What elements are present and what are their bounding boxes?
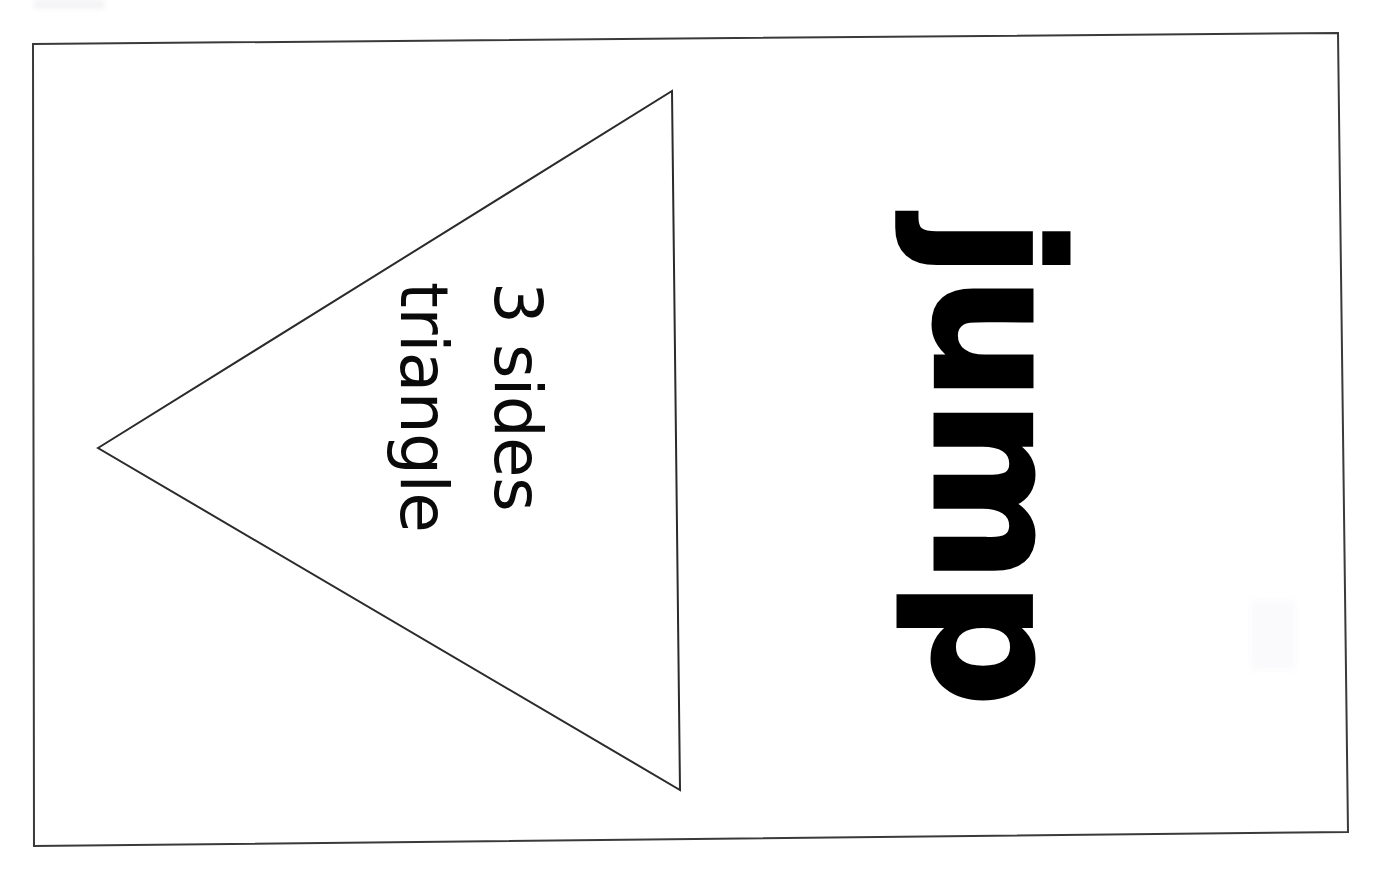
triangle-label-line-2: 3 sides [484,282,550,511]
triangle-label-group: triangle 3 sides [392,282,622,582]
scanned-page: triangle 3 sides jump [0,0,1382,869]
word-text-jump: jump [907,218,1083,705]
triangle-shape-container [0,0,1382,869]
triangle-label-line-1: triangle [390,282,456,532]
word-card-jump: jump [905,218,1105,658]
